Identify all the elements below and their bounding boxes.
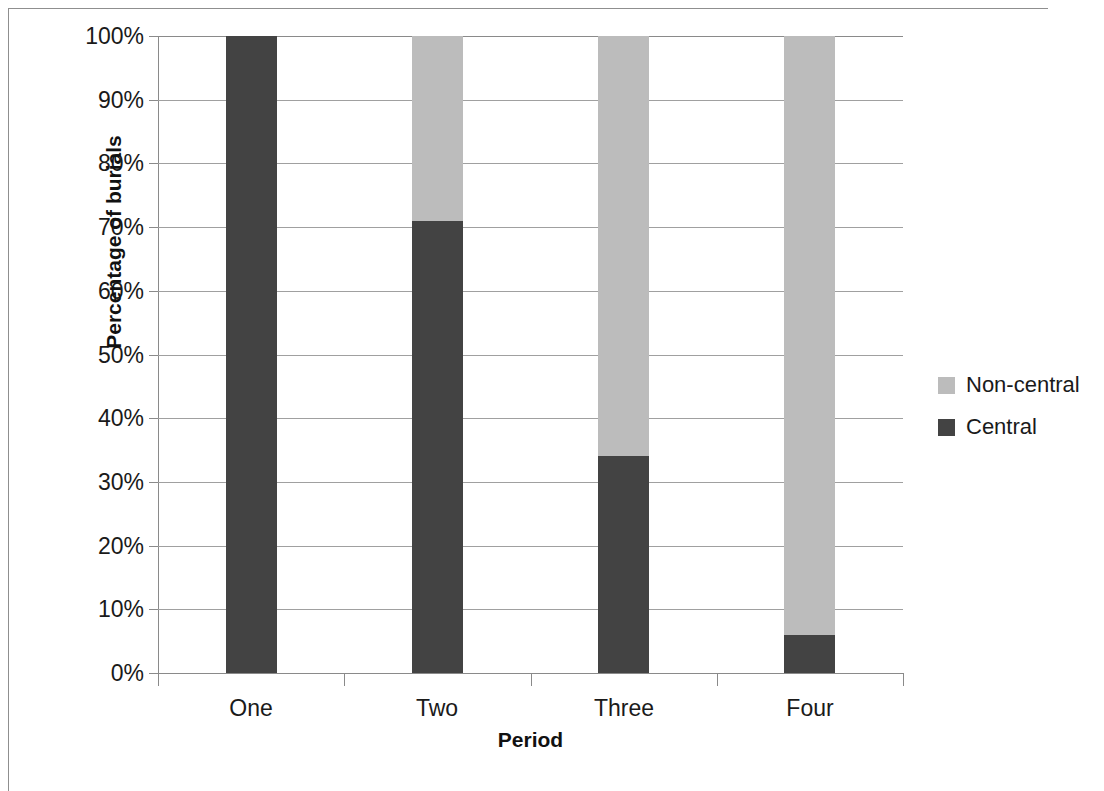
y-axis-tick — [149, 609, 158, 610]
y-axis-title: Percentage of burials — [102, 92, 126, 392]
x-axis-tick — [531, 673, 532, 686]
chart-figure: 0%10%20%30%40%50%60%70%80%90%100% OneTwo… — [0, 0, 1104, 791]
y-axis-tick — [149, 163, 158, 164]
bar-group[interactable] — [412, 36, 463, 673]
legend-item-label: Non-central — [966, 374, 1080, 396]
x-axis-tick — [158, 673, 159, 686]
bar-segment-central[interactable] — [784, 635, 835, 673]
y-axis-tick — [149, 291, 158, 292]
y-axis-tick — [149, 418, 158, 419]
y-axis-tick-label: 10% — [98, 598, 144, 621]
bar-segment-central[interactable] — [412, 221, 463, 673]
bar-segment-non-central[interactable] — [598, 36, 649, 456]
y-axis-tick — [149, 36, 158, 37]
y-axis-tick — [149, 546, 158, 547]
y-axis-tick-label: 40% — [98, 407, 144, 430]
x-axis-line: OneTwoThreeFour — [158, 673, 903, 674]
legend-item[interactable]: Central — [938, 406, 1098, 448]
y-axis-tick — [149, 100, 158, 101]
y-axis-tick-label: 30% — [98, 471, 144, 494]
plot-area: 0%10%20%30%40%50%60%70%80%90%100% — [158, 36, 903, 673]
figure-border-left — [8, 8, 9, 791]
x-axis-category-label: Four — [786, 697, 833, 720]
y-axis-tick — [149, 673, 158, 674]
bar-segment-central[interactable] — [226, 36, 277, 673]
legend-swatch-icon — [938, 419, 955, 436]
bar-group[interactable] — [226, 36, 277, 673]
y-axis-tick — [149, 355, 158, 356]
x-axis-category-label: Three — [594, 697, 654, 720]
legend-swatch-icon — [938, 377, 955, 394]
bars-layer — [158, 36, 903, 673]
x-axis-tick — [717, 673, 718, 686]
x-axis-category-label: Two — [416, 697, 458, 720]
bar-segment-non-central[interactable] — [784, 36, 835, 635]
legend-item[interactable]: Non-central — [938, 364, 1098, 406]
legend-item-label: Central — [966, 416, 1037, 438]
y-axis-tick-label: 20% — [98, 535, 144, 558]
x-axis-category-label: One — [229, 697, 272, 720]
y-axis-tick — [149, 227, 158, 228]
y-axis-tick-label: 100% — [85, 25, 144, 48]
bar-segment-non-central[interactable] — [412, 36, 463, 221]
x-axis-tick — [344, 673, 345, 686]
chart-legend: Non-centralCentral — [938, 364, 1098, 448]
y-axis-tick — [149, 482, 158, 483]
bar-group[interactable] — [598, 36, 649, 673]
x-axis-tick — [903, 673, 904, 686]
x-axis-title: Period — [158, 728, 903, 752]
figure-border-top — [8, 8, 1048, 9]
bar-group[interactable] — [784, 36, 835, 673]
bar-segment-central[interactable] — [598, 456, 649, 673]
y-axis-tick-label: 0% — [111, 662, 144, 685]
